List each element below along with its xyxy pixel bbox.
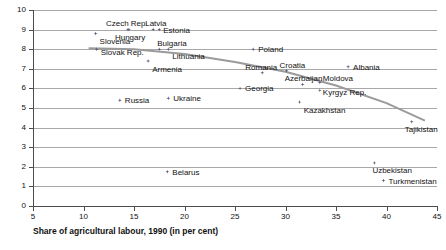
point-label-turkmenistan: Turkmenistan: [388, 177, 436, 186]
data-point-georgia: [238, 86, 243, 91]
y-tick-label: 1: [7, 181, 26, 191]
point-label-croatia: Croatia: [280, 61, 306, 70]
x-axis-title: Share of agricultural labour, 1990 (in p…: [33, 226, 218, 236]
x-tick-label: 30: [272, 212, 300, 222]
data-point-poland: [251, 47, 256, 52]
data-point-tajikistan: [409, 119, 414, 124]
point-label-kyrgyz-rep: Kyrgyz Rep.: [323, 88, 367, 97]
gridline: [33, 147, 437, 148]
gridline: [33, 108, 437, 109]
x-tick-label: 15: [120, 212, 148, 222]
point-label-russia: Russia: [125, 96, 149, 105]
point-label-moldova: Moldova: [323, 74, 353, 83]
point-label-romania: Romania: [245, 63, 277, 72]
y-tick-label: 9: [7, 25, 26, 35]
scatter-chart: SloveniaCzech Rep.HungaryLatviaSlovak Re…: [0, 0, 446, 250]
point-label-albania: Albania: [353, 63, 380, 72]
data-point-albania: [346, 64, 351, 69]
x-tick-label: 40: [373, 212, 401, 222]
x-tick-label: 35: [322, 212, 350, 222]
point-label-belarus: Belarus: [172, 168, 199, 177]
gridline: [33, 10, 437, 11]
data-point-hungary: [126, 27, 131, 32]
data-point-moldova: [317, 80, 322, 85]
point-label-bulgaria: Bulgaria: [157, 39, 186, 48]
point-label-hungary: Hungary: [115, 33, 145, 42]
data-point-lithuania: [166, 47, 171, 52]
gridline: [33, 88, 437, 89]
point-label-uzbekistan: Uzbekistan: [372, 166, 412, 175]
data-point-turkmenistan: [381, 178, 386, 183]
y-tick-label: 5: [7, 103, 26, 113]
x-tick-label: 45: [423, 212, 446, 222]
y-axis-line: [33, 10, 34, 206]
data-point-kazakhstan: [297, 100, 302, 105]
data-point-uzbekistan: [372, 160, 377, 165]
x-axis-line: [33, 206, 437, 207]
data-point-latvia: [151, 27, 156, 32]
y-tick-label: 8: [7, 44, 26, 54]
x-tick-label: 20: [171, 212, 199, 222]
data-point-slovenia: [93, 31, 98, 36]
data-point-kyrgyz-rep: [317, 88, 322, 93]
data-point-estonia: [157, 27, 162, 32]
point-label-estonia: Estonia: [163, 26, 190, 35]
point-label-ukraine: Ukraine: [173, 94, 201, 103]
x-tick-mark: [437, 206, 438, 211]
x-tick-label: 25: [221, 212, 249, 222]
x-tick-label: 10: [70, 212, 98, 222]
y-tick-label: 10: [7, 5, 26, 15]
y-tick-label: 2: [7, 162, 26, 172]
data-point-ukraine: [166, 96, 171, 101]
data-point-slovak-rep: [94, 47, 99, 52]
data-point-armenia: [146, 58, 151, 63]
y-tick-label: 7: [7, 64, 26, 74]
point-label-lithuania: Lithuania: [172, 52, 204, 61]
point-label-tajikistan: Tajikistan: [405, 125, 438, 134]
y-tick-label: 6: [7, 83, 26, 93]
y-tick-label: 4: [7, 123, 26, 133]
point-label-georgia: Georgia: [245, 84, 273, 93]
data-point-russia: [117, 98, 122, 103]
gridline: [33, 128, 437, 129]
y-tick-label: 0: [7, 201, 26, 211]
gridline: [33, 186, 437, 187]
point-label-poland: Poland: [258, 45, 283, 54]
plot-area: SloveniaCzech Rep.HungaryLatviaSlovak Re…: [33, 10, 437, 206]
x-tick-label: 5: [19, 212, 47, 222]
data-point-belarus: [165, 169, 170, 174]
point-label-slovak-rep: Slovak Rep.: [101, 48, 144, 57]
point-label-armenia: Armenia: [152, 65, 182, 74]
point-label-kazakhstan: Kazakhstan: [304, 106, 346, 115]
y-tick-label: 3: [7, 142, 26, 152]
